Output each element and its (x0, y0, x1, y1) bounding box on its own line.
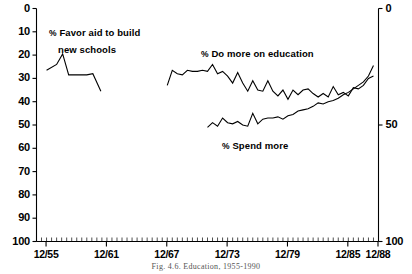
x-axis-tick-12-61: 12/61 (83, 248, 129, 260)
y-axis-left-tick-40: 40 (0, 95, 30, 107)
y-axis-right-tick-0: 0 (386, 2, 392, 14)
x-axis-tick-12-79: 12/79 (264, 248, 310, 260)
y-axis-left-tick-70: 70 (0, 165, 30, 177)
y-axis-left-tick-100: 100 (0, 235, 30, 247)
annotation-favor-aid-line1: % Favor aid to build (49, 27, 140, 38)
y-axis-left-tick-90: 90 (0, 211, 30, 223)
y-axis-left-tick-50: 50 (0, 118, 30, 130)
y-axis-left-tick-10: 10 (0, 25, 30, 37)
x-axis-tick-12-55: 12/55 (23, 248, 69, 260)
x-axis-tick-12-67: 12/67 (144, 248, 190, 260)
y-axis-left-tick-80: 80 (0, 188, 30, 200)
figure-caption: Fig. 4.6. Education, 1955-1990 (0, 262, 412, 271)
x-axis-tick-12-88: 12/88 (355, 248, 401, 260)
chart-plot-area (0, 0, 412, 274)
y-axis-right-tick-100: 100 (386, 235, 404, 247)
annotation-do-more-education: % Do more on education (201, 48, 314, 59)
y-axis-left-tick-0: 0 (0, 2, 30, 14)
annotation-spend-more: % Spend more (222, 140, 288, 151)
y-axis-right-tick-50: 50 (386, 118, 398, 130)
figure-education-chart: 1009080706050403020100 100500 12/5512/61… (0, 0, 412, 274)
y-axis-left-tick-60: 60 (0, 141, 30, 153)
y-axis-left-tick-30: 30 (0, 71, 30, 83)
y-axis-left-tick-20: 20 (0, 48, 30, 60)
annotation-favor-aid-line2: new schools (58, 44, 116, 55)
x-axis-tick-12-73: 12/73 (204, 248, 250, 260)
